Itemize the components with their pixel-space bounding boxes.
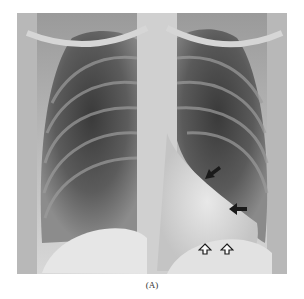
solid-arrow-icon xyxy=(203,165,223,181)
solid-arrow-icon xyxy=(228,203,248,215)
figure-label: (A) xyxy=(0,280,304,290)
chest-xray-image xyxy=(17,13,287,274)
open-arrow-icon xyxy=(198,243,212,255)
open-arrow-icon xyxy=(220,243,234,255)
xray-rendering xyxy=(17,13,287,274)
